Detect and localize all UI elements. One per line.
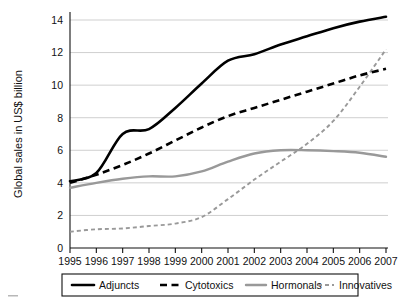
y-tick-label: 12 <box>51 46 63 58</box>
y-tick-label: 4 <box>57 177 63 189</box>
x-tick-label: 1999 <box>164 255 188 267</box>
y-tick-label: 0 <box>57 242 63 254</box>
series-line-cytotoxics <box>70 69 386 183</box>
chart-legend: AdjunctsCytotoxicsHormonalsInnovatives <box>62 274 392 296</box>
x-tick-label: 2000 <box>190 255 214 267</box>
chart-container: 02468101214 1995199619971998199920002001… <box>0 0 410 303</box>
x-tick-label: 2004 <box>295 255 319 267</box>
y-tick-label: 14 <box>51 14 63 26</box>
x-tick-label: 1998 <box>137 255 161 267</box>
line-chart: 02468101214 1995199619971998199920002001… <box>0 0 410 303</box>
legend-entries: AdjunctsCytotoxicsHormonalsInnovatives <box>72 279 392 291</box>
gridlines-group <box>70 20 388 215</box>
series-line-adjuncts <box>70 17 386 181</box>
x-tick-label: 2002 <box>243 255 267 267</box>
x-axis-tick-marks <box>70 248 386 253</box>
x-tick-label: 2006 <box>348 255 372 267</box>
x-tick-label: 2007 <box>374 255 398 267</box>
y-tick-label: 6 <box>57 144 63 156</box>
x-tick-label: 2001 <box>216 255 240 267</box>
legend-label-hormonals: Hormonals <box>271 279 322 291</box>
x-tick-label: 1995 <box>58 255 82 267</box>
legend-label-adjuncts: Adjuncts <box>99 279 139 291</box>
x-tick-label: 1996 <box>85 255 109 267</box>
x-tick-label: 1997 <box>111 255 135 267</box>
x-axis-tick-labels: 1995199619971998199920002001200220032004… <box>58 255 398 267</box>
data-series-group <box>70 17 386 232</box>
y-tick-label: 10 <box>51 79 63 91</box>
y-axis-label: Global sales in US$ billion <box>12 70 24 198</box>
series-line-hormonals <box>70 150 386 188</box>
x-tick-label: 2003 <box>269 255 293 267</box>
y-tick-label: 8 <box>57 112 63 124</box>
legend-label-cytotoxics: Cytotoxics <box>185 279 233 291</box>
x-tick-label: 2005 <box>322 255 346 267</box>
legend-label-innovatives: Innovatives <box>339 279 392 291</box>
y-axis-tick-labels: 02468101214 <box>51 14 63 254</box>
y-tick-label: 2 <box>57 209 63 221</box>
page-artifact-mark <box>8 295 18 297</box>
